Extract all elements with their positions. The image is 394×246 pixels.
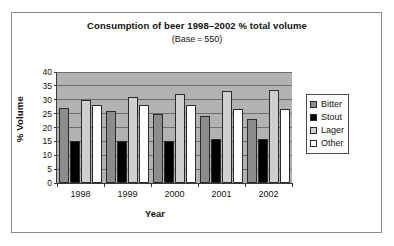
x-tick-label-2000: 2000 xyxy=(164,189,184,199)
bar-bitter-2001[interactable] xyxy=(200,116,210,183)
legend-item-stout[interactable]: Stout xyxy=(310,111,344,124)
chart-title: Consumption of beer 1998–2002 % total vo… xyxy=(0,20,394,31)
bar-other-2002[interactable] xyxy=(280,109,290,183)
chart-legend: BitterStoutLagerOther xyxy=(306,94,349,154)
bar-stout-1998[interactable] xyxy=(70,141,80,183)
legend-swatch-other-icon xyxy=(310,140,317,147)
chart-subtitle: (Base = 550) xyxy=(0,34,394,44)
legend-label: Other xyxy=(321,139,344,148)
y-tick-label: 5 xyxy=(47,165,57,174)
bar-stout-1999[interactable] xyxy=(117,141,127,183)
legend-swatch-bitter-icon xyxy=(310,101,317,108)
bar-bitter-2002[interactable] xyxy=(247,119,257,183)
bar-stout-2001[interactable] xyxy=(211,139,221,183)
x-tick-label-1998: 1998 xyxy=(70,189,90,199)
bar-bitter-1998[interactable] xyxy=(59,108,69,183)
x-tick-label-2002: 2002 xyxy=(258,189,278,199)
legend-swatch-lager-icon xyxy=(310,127,317,134)
bar-lager-1998[interactable] xyxy=(81,100,91,183)
bar-group xyxy=(151,72,198,183)
bar-other-1998[interactable] xyxy=(92,105,102,183)
x-tick-mark xyxy=(57,183,58,187)
bar-other-2001[interactable] xyxy=(233,109,243,183)
x-tick-label-2001: 2001 xyxy=(211,189,231,199)
y-tick-label: 20 xyxy=(43,123,57,132)
y-tick-label: 40 xyxy=(43,68,57,77)
legend-label: Bitter xyxy=(321,100,342,109)
legend-item-bitter[interactable]: Bitter xyxy=(310,98,344,111)
legend-label: Lager xyxy=(321,126,344,135)
bar-bitter-1999[interactable] xyxy=(106,111,116,183)
bar-lager-2001[interactable] xyxy=(222,91,232,183)
bar-group xyxy=(57,72,104,183)
x-tick-mark xyxy=(198,183,199,187)
bar-other-2000[interactable] xyxy=(186,105,196,183)
chart-figure: Consumption of beer 1998–2002 % total vo… xyxy=(0,0,394,246)
bar-group xyxy=(198,72,245,183)
y-tick-label: 15 xyxy=(43,137,57,146)
plot-area: 051015202530354019981999200020012002 xyxy=(56,72,292,184)
bar-other-1999[interactable] xyxy=(139,105,149,183)
bar-stout-2002[interactable] xyxy=(258,139,268,183)
legend-label: Stout xyxy=(321,113,342,122)
bar-group xyxy=(104,72,151,183)
x-tick-mark xyxy=(104,183,105,187)
y-tick-label: 10 xyxy=(43,151,57,160)
legend-item-lager[interactable]: Lager xyxy=(310,124,344,137)
x-tick-mark xyxy=(151,183,152,187)
x-tick-mark xyxy=(245,183,246,187)
legend-swatch-stout-icon xyxy=(310,114,317,121)
x-tick-mark xyxy=(292,183,293,187)
y-tick-label: 25 xyxy=(43,109,57,118)
y-tick-label: 30 xyxy=(43,96,57,105)
bar-lager-2002[interactable] xyxy=(269,90,279,183)
y-axis-label: % Volume xyxy=(14,96,28,142)
bar-stout-2000[interactable] xyxy=(164,141,174,183)
y-tick-label: 0 xyxy=(47,179,57,188)
legend-item-other[interactable]: Other xyxy=(310,137,344,150)
x-axis-label: Year xyxy=(30,208,280,219)
bar-lager-1999[interactable] xyxy=(128,97,138,183)
bar-lager-2000[interactable] xyxy=(175,94,185,183)
bar-bitter-2000[interactable] xyxy=(153,114,163,183)
bar-group xyxy=(245,72,292,183)
x-tick-label-1999: 1999 xyxy=(117,189,137,199)
y-tick-label: 35 xyxy=(43,82,57,91)
